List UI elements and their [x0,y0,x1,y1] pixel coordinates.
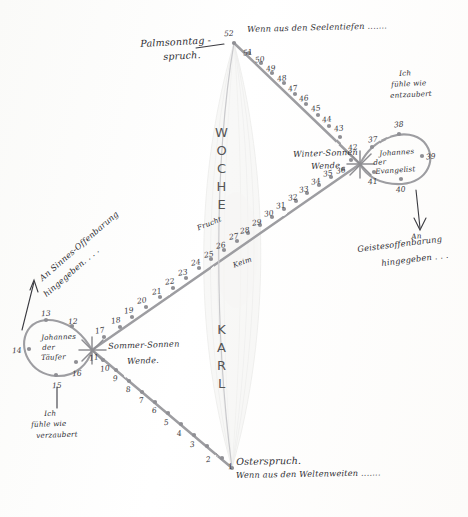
week-number-37: 37 [368,135,379,145]
vertical-word-woche: WOCHE [214,125,229,215]
week-number-11: 11 [88,352,99,362]
week-number-28: 28 [239,225,250,236]
week-number-17: 17 [94,325,105,336]
week-number-18: 18 [110,315,121,326]
week-number-26: 26 [215,240,226,251]
week-number-42: 42 [347,142,358,153]
week-number-12: 12 [68,317,78,327]
week-dot-6 [166,411,170,415]
week-number-2: 2 [205,455,211,465]
week-dot-10 [114,368,118,372]
week-number-49: 49 [265,63,276,74]
week-number-45: 45 [310,103,321,114]
week-number-30: 30 [263,208,274,219]
week-dot-2 [220,456,224,460]
week-dot-13 [44,318,48,322]
week-number-6: 6 [151,406,157,416]
week-number-8: 8 [125,385,131,395]
week-dot-15 [54,373,58,377]
week-number-51: 51 [242,47,253,58]
right-annotation-line1: Ich [399,69,412,78]
week-dot-52 [232,41,236,45]
diagram-canvas: WOCHE KARL Frucht Keim Palmsonntag - spr… [0,0,468,517]
vertical-word-karl: KARL [214,322,229,394]
week-number-34: 34 [310,176,321,187]
left-loop-name-line1: Johannes [41,333,76,343]
week-dot-8 [140,390,144,394]
week-number-13: 13 [41,309,51,319]
week-number-3: 3 [189,440,195,450]
week-number-27: 27 [228,231,239,242]
arrow-right-down [414,190,426,230]
week-dot-5 [179,422,183,426]
week-dot-4 [192,433,196,437]
week-number-50: 50 [254,54,265,65]
week-number-4: 4 [176,429,182,439]
week-dot-37 [370,145,374,149]
week-number-52: 52 [224,29,234,39]
week-dot-9 [127,379,131,383]
week-dot-20 [144,305,148,309]
week-dot-42 [349,158,353,162]
week-number-23: 23 [177,267,188,278]
week-dot-17 [102,335,106,339]
left-node-label-line2: Wende. [127,356,159,367]
week-number-44: 44 [321,114,332,125]
week-dot-40 [399,177,403,181]
top-node-label-line2: spruch. [163,49,201,62]
week-number-33: 33 [298,184,309,195]
week-dot-22 [171,286,175,290]
week-number-24: 24 [190,257,201,268]
bottom-node-label: Osterspruch. [236,455,301,467]
week-number-16: 16 [72,369,82,379]
week-number-32: 32 [287,192,298,203]
week-number-41: 41 [368,177,379,187]
week-number-5: 5 [163,418,169,428]
week-dot-14 [27,347,31,351]
week-number-46: 46 [298,93,309,104]
week-number-39: 39 [426,152,437,162]
week-number-21: 21 [151,286,162,297]
week-dot-44 [327,124,331,128]
week-dot-18 [118,325,122,329]
week-number-9: 9 [112,374,118,384]
week-number-7: 7 [138,396,144,406]
week-number-15: 15 [52,381,62,391]
week-number-29: 29 [251,217,262,228]
week-number-40: 40 [396,185,407,195]
left-loop-name-line3: Täufer [41,353,66,362]
week-dot-43 [338,135,342,139]
week-number-14: 14 [12,346,22,356]
week-number-38: 38 [394,120,405,130]
week-number-31: 31 [275,200,286,211]
week-number-25: 25 [203,249,214,260]
week-number-47: 47 [287,83,298,94]
week-number-22: 22 [164,276,175,287]
week-dot-38 [397,132,401,136]
week-number-20: 20 [136,295,147,306]
week-number-48: 48 [276,73,287,84]
week-number-35: 35 [322,168,333,179]
week-dot-39 [420,154,424,158]
week-dot-16 [74,360,78,364]
left-annotation-line1: Ich [44,410,56,419]
week-number-1: 1 [228,462,234,471]
week-number-19: 19 [123,305,134,316]
week-number-36: 36 [335,165,346,176]
left-annotation-line2: fühle wie [31,420,67,430]
week-dot-7 [153,400,157,404]
left-annotation-line3: verzaubert [36,431,78,441]
left-loop-name-line2: der [42,344,55,353]
week-dot-19 [130,315,134,319]
week-number-10: 10 [99,363,110,373]
week-dot-3 [205,444,209,448]
week-dot-45 [316,113,320,117]
week-number-43: 43 [333,123,344,134]
week-dot-11 [101,358,105,362]
